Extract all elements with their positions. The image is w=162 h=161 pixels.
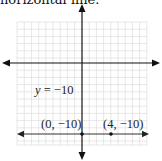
- point-label-1: (0, −10): [41, 118, 81, 131]
- x-axis: [2, 60, 160, 67]
- point-4-minus-10: [109, 132, 113, 136]
- point-label-2: (4, −10): [103, 118, 143, 131]
- coordinate-plane: [0, 0, 162, 161]
- equation-label: y = −10: [35, 84, 73, 97]
- graph-figure: horizontal line.: [0, 0, 162, 161]
- point-0-minus-10: [80, 132, 84, 136]
- y-axis: [79, 4, 86, 160]
